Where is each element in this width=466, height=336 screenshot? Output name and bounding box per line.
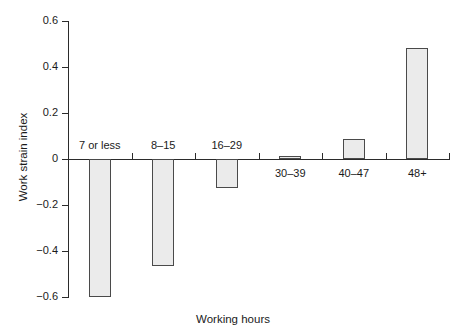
y-axis-tick-label: −0.6 bbox=[18, 291, 58, 302]
x-axis-tick bbox=[386, 153, 387, 160]
x-axis-tick bbox=[68, 153, 69, 160]
x-axis-category-label: 48+ bbox=[386, 167, 450, 179]
bar bbox=[406, 48, 428, 159]
bar bbox=[89, 159, 111, 297]
y-axis-tick-label: −0.4 bbox=[18, 245, 58, 256]
bar bbox=[216, 159, 238, 188]
chart-figure: Work strain index 0.60.40.20−0.2−0.4−0.6… bbox=[0, 0, 466, 336]
zero-baseline bbox=[63, 159, 449, 160]
x-axis-category-label: 30–39 bbox=[259, 167, 323, 179]
y-axis-ticks: 0.60.40.20−0.2−0.4−0.6 bbox=[0, 0, 69, 336]
x-axis-category-label: 8–15 bbox=[132, 139, 196, 151]
bar bbox=[343, 139, 365, 159]
y-axis-tick-label: 0.2 bbox=[18, 107, 58, 118]
y-axis-tick-label: 0 bbox=[18, 153, 58, 164]
x-axis-tick bbox=[322, 153, 323, 160]
x-axis-tick bbox=[259, 153, 260, 160]
bar bbox=[152, 159, 174, 266]
plot-area: 7 or less8–1516–2930–3940–4748+ bbox=[68, 21, 449, 297]
y-axis-tick bbox=[62, 297, 69, 298]
x-axis-tick bbox=[449, 153, 450, 160]
x-axis-category-label: 16–29 bbox=[195, 139, 259, 151]
y-axis-tick-label: −0.2 bbox=[18, 199, 58, 210]
y-axis-tick-label: 0.6 bbox=[18, 15, 58, 26]
x-axis-category-label: 40–47 bbox=[322, 167, 386, 179]
y-axis-tick-label: 0.4 bbox=[18, 61, 58, 72]
x-axis-category-label: 7 or less bbox=[68, 139, 132, 151]
x-axis-title: Working hours bbox=[0, 313, 466, 325]
bar bbox=[279, 156, 301, 159]
x-axis-tick bbox=[195, 153, 196, 160]
x-axis-tick bbox=[132, 153, 133, 160]
